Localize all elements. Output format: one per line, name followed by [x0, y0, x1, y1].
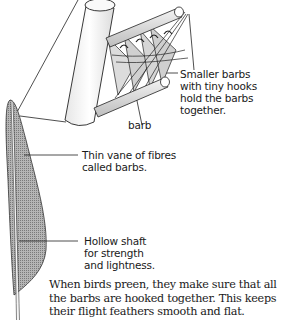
feather-diagram: Smaller barbs with tiny hooks hold the b…: [0, 0, 282, 324]
caption: When birds preen, they make sure that al…: [49, 278, 281, 319]
label-hooks: Smaller barbs with tiny hooks hold the b…: [180, 68, 257, 116]
label-vane: Thin vane of fibres called barbs.: [82, 149, 176, 173]
label-barb: barb: [128, 119, 151, 131]
label-shaft: Hollow shaft for strength and lightness.: [84, 235, 155, 271]
feather-vane: [6, 100, 46, 320]
